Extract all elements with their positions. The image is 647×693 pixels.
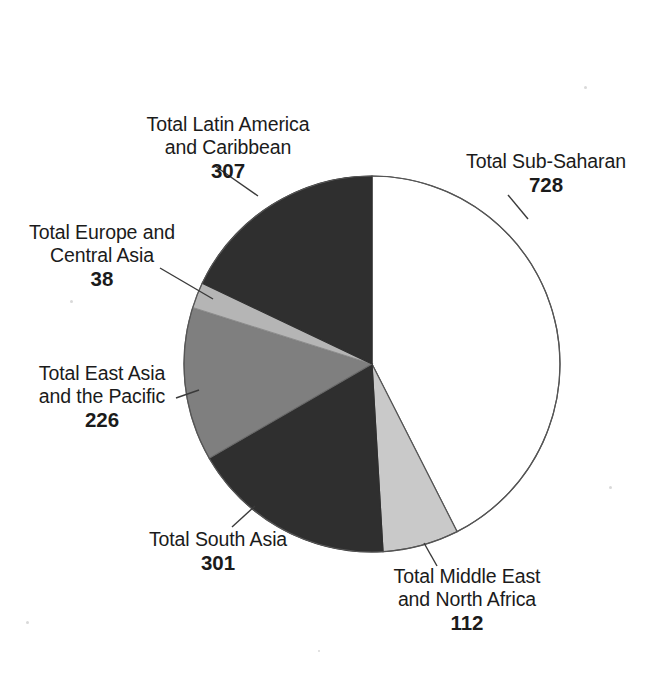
leader-line-middle-east: [424, 543, 437, 566]
slice-value: 307: [118, 159, 338, 183]
slice-label-line-1: Total East Asia: [2, 362, 202, 385]
slice-value: 38: [2, 267, 202, 291]
slice-label-east-asia-pacific: Total East Asia and the Pacific 226: [2, 362, 202, 432]
slice-label-line-1: Total Sub-Saharan: [446, 150, 646, 173]
slice-label-line-1: Total Latin America: [118, 113, 338, 136]
slice-label-line-2: and Caribbean: [118, 136, 338, 159]
slice-label-south-asia: Total South Asia 301: [108, 528, 328, 575]
slice-value: 226: [2, 408, 202, 432]
slice-label-sub-saharan: Total Sub-Saharan 728: [446, 150, 646, 197]
slice-value: 112: [352, 611, 582, 635]
leader-line-south-asia: [232, 506, 255, 527]
slice-label-line-1: Total South Asia: [108, 528, 328, 551]
leader-line-sub-saharan: [508, 195, 528, 219]
slice-label-middle-east-north-africa: Total Middle East and North Africa 112: [352, 565, 582, 635]
slice-label-latin-america-caribbean: Total Latin America and Caribbean 307: [118, 113, 338, 183]
slice-label-line-1: Total Europe and: [2, 221, 202, 244]
slice-value: 301: [108, 551, 328, 575]
pie-chart: Total Latin America and Caribbean 307 To…: [0, 0, 647, 693]
slice-label-europe-central-asia: Total Europe and Central Asia 38: [2, 221, 202, 291]
slice-label-line-2: and North Africa: [352, 588, 582, 611]
slice-label-line-1: Total Middle East: [352, 565, 582, 588]
pie-slices-group: [184, 176, 560, 552]
slice-label-line-2: and the Pacific: [2, 385, 202, 408]
slice-value: 728: [446, 173, 646, 197]
slice-label-line-2: Central Asia: [2, 244, 202, 267]
